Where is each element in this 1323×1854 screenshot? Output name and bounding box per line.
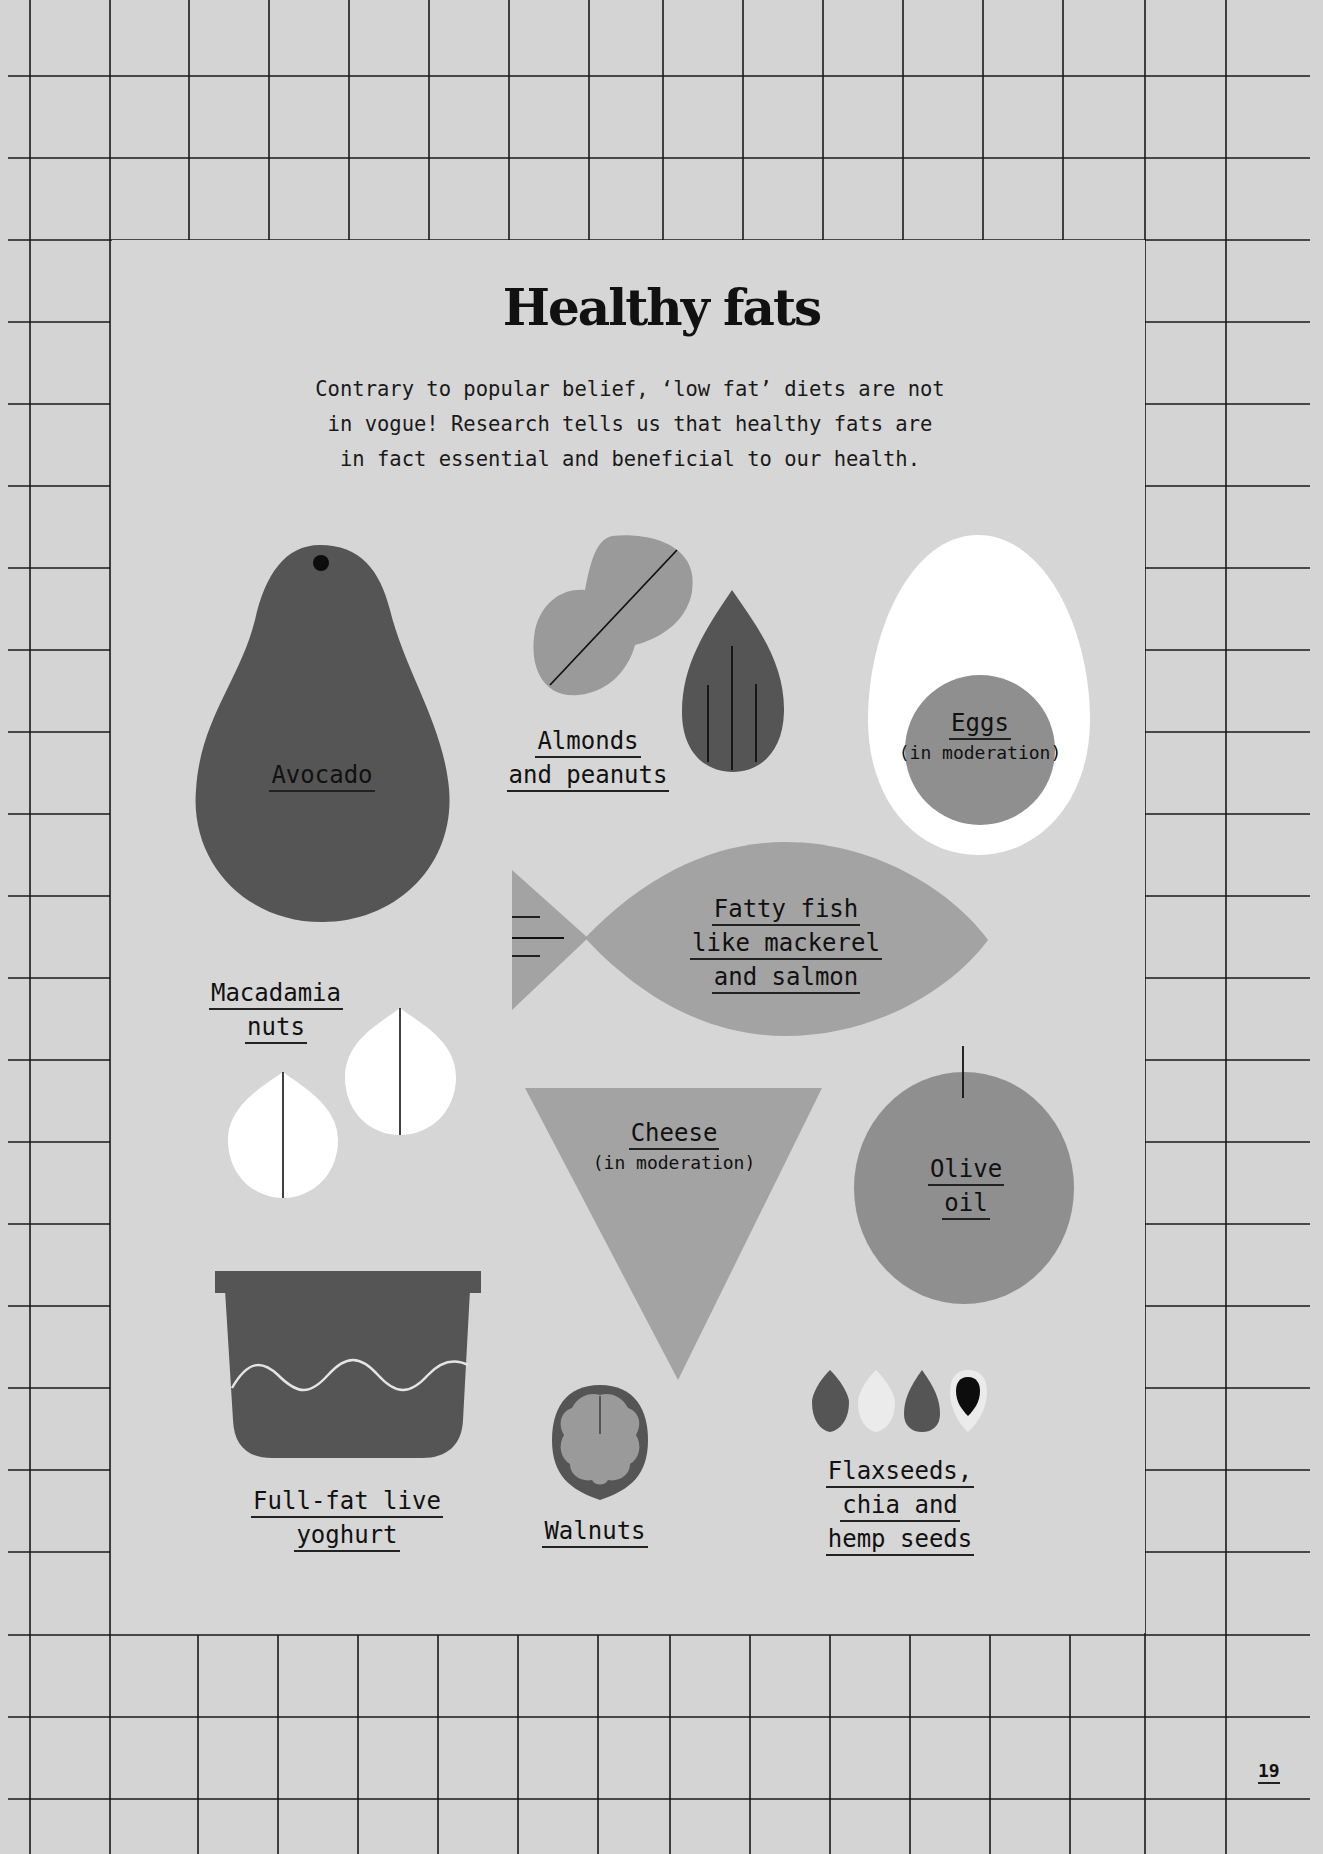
label-line: Full-fat live xyxy=(251,1486,443,1518)
olive-oil-label: Olive oil xyxy=(904,1152,1028,1220)
healthy-fats-page: Healthy fats Contrary to popular belief,… xyxy=(0,0,1323,1854)
cheese-label: Cheese (in moderation) xyxy=(584,1116,764,1176)
label-note: (in moderation) xyxy=(584,1150,764,1176)
avocado-icon xyxy=(196,545,450,922)
label-line: Fatty fish xyxy=(712,894,861,926)
yoghurt-pot-icon xyxy=(215,1271,481,1458)
seeds-label: Flaxseeds, chia and hemp seeds xyxy=(810,1454,990,1556)
label-line: chia and xyxy=(840,1490,960,1522)
eggs-label: Eggs (in moderation) xyxy=(890,706,1070,766)
walnuts-label: Walnuts xyxy=(530,1514,660,1548)
label-line: Almonds xyxy=(535,726,640,758)
walnut-icon xyxy=(552,1385,648,1500)
label-line: Walnuts xyxy=(542,1516,647,1548)
seeds-icon xyxy=(812,1370,987,1432)
avocado-label: Avocado xyxy=(260,758,384,792)
food-illustrations xyxy=(0,0,1323,1854)
macadamia-label: Macadamia nuts xyxy=(196,976,356,1044)
label-line: like mackerel xyxy=(690,928,882,960)
label-line: Avocado xyxy=(269,760,374,792)
label-line: hemp seeds xyxy=(826,1524,975,1556)
page-number: 19 xyxy=(1258,1760,1280,1784)
label-line: nuts xyxy=(245,1012,307,1044)
egg-icon xyxy=(868,535,1090,855)
label-line: Macadamia xyxy=(209,978,343,1010)
label-line: and salmon xyxy=(712,962,861,994)
label-line: oil xyxy=(942,1188,989,1220)
label-line: Olive xyxy=(928,1154,1004,1186)
label-line: yoghurt xyxy=(294,1520,399,1552)
yoghurt-label: Full-fat live yoghurt xyxy=(236,1484,458,1552)
fatty-fish-label: Fatty fish like mackerel and salmon xyxy=(670,892,902,994)
label-line: and peanuts xyxy=(507,760,670,792)
label-line: Eggs xyxy=(949,708,1011,740)
label-note: (in moderation) xyxy=(890,740,1070,766)
label-line: Cheese xyxy=(629,1118,720,1150)
almonds-peanuts-label: Almonds and peanuts xyxy=(498,724,678,792)
label-line: Flaxseeds, xyxy=(826,1456,975,1488)
